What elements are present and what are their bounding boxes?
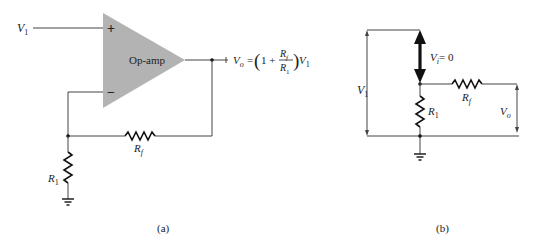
opamp-label: Op-amp (129, 54, 166, 66)
svg-text:V1: V1 (299, 54, 310, 69)
r1-label-b: R1 (427, 105, 439, 120)
rf-label-b: Rf (461, 91, 473, 106)
inverting-input-wire (68, 92, 103, 136)
svg-text:(: ( (254, 50, 260, 72)
r1-label: R1 (47, 172, 59, 187)
plus-sign: + (107, 21, 115, 36)
ground-icon (62, 199, 74, 205)
caption-b: (b) (436, 222, 449, 235)
svg-text:R1: R1 (279, 62, 290, 76)
r1-resistor (64, 152, 72, 183)
rf-label: Rf (133, 142, 145, 157)
figure-a-noninverting-amplifier (33, 13, 228, 205)
vo-arrow-top (515, 84, 519, 90)
r1-resistor-b (416, 96, 424, 127)
svg-text:1 +: 1 + (261, 54, 275, 66)
rf-resistor-b (452, 80, 482, 88)
circuit-diagram: V1 + − Op-amp Vo = ( 1 + Rf R1 ) V1 Rf R… (0, 0, 534, 245)
v1-arrow-bottom (365, 130, 369, 136)
input-label-v1: V1 (17, 21, 28, 37)
vo-arrow-bottom (515, 127, 519, 133)
vi-arrow-bottom (414, 69, 426, 83)
output-equation: Vo = ( 1 + Rf R1 ) V1 (233, 48, 310, 76)
vi-arrow-top (414, 30, 426, 44)
svg-text:=: = (247, 54, 253, 66)
ground-node-b (418, 134, 422, 138)
v1-arrow-top (365, 30, 369, 36)
vi-label: Vi= 0 (430, 51, 454, 66)
ground-icon (414, 154, 426, 160)
svg-text:Vo: Vo (233, 54, 244, 69)
caption-a: (a) (157, 222, 170, 235)
vo-label-b: Vo (500, 105, 511, 120)
figure-b-equivalent-circuit (365, 30, 519, 160)
rf-resistor (125, 132, 155, 140)
minus-sign: − (107, 85, 115, 100)
